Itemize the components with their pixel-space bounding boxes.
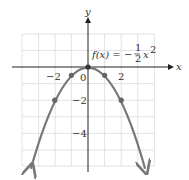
svg-text:2: 2 <box>135 53 141 64</box>
tick-y-neg2: −2 <box>72 95 87 106</box>
svg-text:f(x) = −: f(x) = − <box>91 49 132 60</box>
y-axis-label: y <box>84 6 91 17</box>
parabola-graph: x y −2 0 2 −2 −4 f(x) = − 1 2 x 2 <box>0 0 189 180</box>
x-axis-label: x <box>176 61 182 72</box>
function-label: f(x) = − 1 2 x 2 <box>91 42 156 64</box>
svg-text:1: 1 <box>135 42 141 53</box>
tick-x-2: 2 <box>118 71 124 82</box>
svg-text:2: 2 <box>150 44 156 55</box>
tick-x-0: 0 <box>80 72 86 83</box>
tick-y-neg4: −4 <box>72 128 87 139</box>
tick-x-neg2: −2 <box>46 71 61 82</box>
svg-text:x: x <box>143 49 149 60</box>
